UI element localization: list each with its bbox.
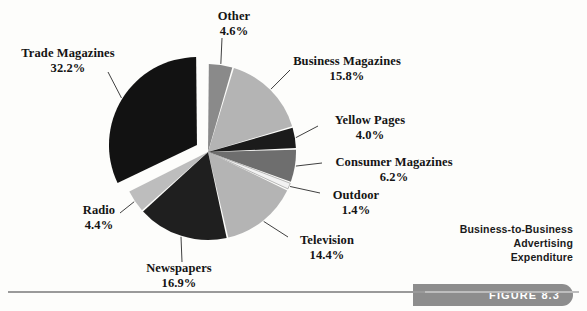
slice-label-consumer-magazines-pct: 6.2%: [320, 170, 468, 185]
slice-label-consumer-magazines-name: Consumer Magazines: [335, 155, 452, 169]
slice-label-other-name: Other: [218, 9, 250, 23]
slice-label-business-magazines-pct: 15.8%: [281, 69, 413, 84]
slice-label-television-name: Television: [300, 233, 354, 247]
leader-line-newspapers: [181, 237, 182, 262]
slice-label-consumer-magazines: Consumer Magazines 6.2%: [320, 155, 468, 185]
bottom-rule-secondary: [425, 291, 579, 293]
slice-label-newspapers-pct: 16.9%: [130, 276, 228, 291]
leader-line-yellow-pages: [296, 126, 318, 138]
slice-label-yellow-pages: Yellow Pages 4.0%: [318, 113, 422, 143]
slice-label-outdoor-name: Outdoor: [333, 188, 380, 202]
slice-label-television: Television 14.4%: [281, 233, 373, 263]
slice-label-radio-name: Radio: [83, 203, 115, 217]
slice-label-trade-magazines-pct: 32.2%: [8, 61, 128, 76]
slice-label-yellow-pages-pct: 4.0%: [318, 128, 422, 143]
slice-label-business-magazines: Business Magazines 15.8%: [281, 54, 413, 84]
slice-label-newspapers-name: Newspapers: [146, 261, 212, 275]
figure-caption-line-1: Business-to-Business: [395, 222, 573, 236]
leader-line-trade-magazines: [108, 72, 121, 98]
figure-number-pill: FIGURE 8.3: [413, 284, 573, 306]
figure-page: Trade Magazines 32.2% Other 4.6% Busines…: [0, 0, 587, 311]
slice-label-trade-magazines-name: Trade Magazines: [21, 46, 114, 60]
pie-slice-group: [109, 57, 296, 240]
slice-label-radio: Radio 4.4%: [70, 203, 128, 233]
slice-label-radio-pct: 4.4%: [70, 218, 128, 233]
figure-caption-title: Business-to-Business Advertising Expendi…: [395, 222, 573, 264]
slice-label-business-magazines-name: Business Magazines: [293, 54, 401, 68]
leader-line-consumer-magazines: [296, 163, 322, 166]
slice-label-newspapers: Newspapers 16.9%: [130, 261, 228, 291]
slice-label-other: Other 4.6%: [201, 9, 267, 39]
slice-label-television-pct: 14.4%: [281, 248, 373, 263]
figure-caption-line-2: Advertising: [395, 236, 573, 250]
pie-slice-trade-magazines: [109, 57, 197, 183]
slice-label-trade-magazines: Trade Magazines 32.2%: [8, 46, 128, 76]
leader-line-other: [221, 38, 222, 64]
slice-label-outdoor: Outdoor 1.4%: [316, 188, 396, 218]
slice-label-other-pct: 4.6%: [201, 24, 267, 39]
figure-caption-line-3: Expenditure: [395, 250, 573, 264]
slice-label-yellow-pages-name: Yellow Pages: [335, 113, 405, 127]
figure-caption-block: Business-to-Business Advertising Expendi…: [395, 222, 573, 264]
slice-label-outdoor-pct: 1.4%: [316, 203, 396, 218]
bottom-rule: [8, 291, 428, 293]
